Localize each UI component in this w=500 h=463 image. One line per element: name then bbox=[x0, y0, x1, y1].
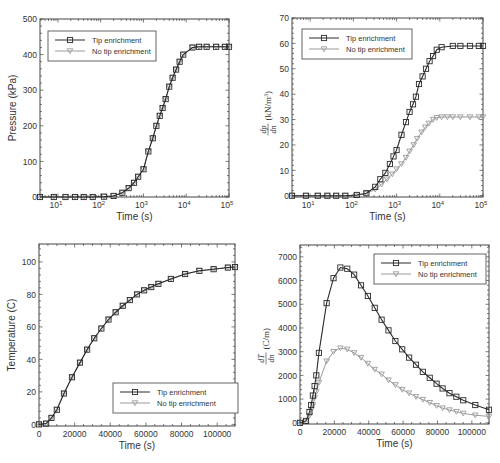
y-tick-label: 40 bbox=[280, 89, 290, 99]
y-tick-label: 20 bbox=[280, 140, 290, 150]
dtdn-legend: Tip enrichmentNo tip enrichment bbox=[374, 254, 486, 284]
dtdn-chart: 0100020003000400050006000700002000040000… bbox=[257, 245, 492, 449]
x-tick-label: 101 bbox=[302, 200, 315, 211]
x-tick-label: 103 bbox=[135, 200, 148, 211]
x-tick-label: 0 bbox=[37, 429, 42, 439]
x-tick-label: 102 bbox=[345, 200, 358, 211]
legend-entry: No tip enrichment bbox=[92, 47, 152, 56]
x-tick-label: 20000 bbox=[323, 427, 347, 437]
pressure-xlabel: Time (s) bbox=[116, 211, 152, 222]
svg-text:dT: dT bbox=[257, 354, 266, 363]
y-tick-label: 40 bbox=[27, 355, 37, 365]
x-tick-label: 60000 bbox=[391, 427, 415, 437]
pressure-ylabel: Pressure (kPa) bbox=[7, 75, 18, 142]
temperature-chart: 020406080100020000400006000080000100000T… bbox=[6, 244, 238, 451]
temperature-legend: Tip enrichmentNo tip enrichment bbox=[113, 383, 238, 413]
x-tick-label: 105 bbox=[475, 200, 488, 211]
y-tick-label: 500 bbox=[23, 14, 37, 24]
y-tick-label: 100 bbox=[22, 257, 36, 267]
svg-text:Pressure (kPa): Pressure (kPa) bbox=[7, 75, 18, 142]
figure: 0100200300400500101102103104105Time (s)P… bbox=[0, 0, 500, 463]
legend-entry: Tip enrichment bbox=[346, 34, 396, 43]
x-tick-label: 80000 bbox=[426, 427, 450, 437]
x-tick-label: 80000 bbox=[170, 429, 194, 439]
series-tip-enrichment bbox=[297, 265, 491, 425]
series-no-tip-enrichment bbox=[297, 346, 492, 425]
legend-entry: Tip enrichment bbox=[157, 388, 207, 397]
svg-text:dn: dn bbox=[267, 355, 276, 363]
y-tick-label: 20 bbox=[27, 387, 37, 397]
x-tick-label: 40000 bbox=[357, 427, 381, 437]
series-tip-enrichment bbox=[37, 44, 231, 199]
y-tick-label: 0 bbox=[284, 191, 289, 201]
temperature-xlabel: Time (s) bbox=[119, 440, 155, 451]
figure-canvas: 0100200300400500101102103104105Time (s)P… bbox=[0, 0, 500, 463]
y-tick-label: 4000 bbox=[278, 323, 297, 333]
y-tick-label: 200 bbox=[23, 121, 37, 131]
y-tick-label: 60 bbox=[280, 39, 290, 49]
x-tick-label: 40000 bbox=[98, 429, 122, 439]
dpdn-ylabel: dpdn(kN/m3) bbox=[259, 91, 278, 136]
svg-text:(C/m): (C/m) bbox=[261, 328, 271, 350]
y-tick-label: 60 bbox=[27, 322, 37, 332]
x-tick-label: 20000 bbox=[63, 429, 87, 439]
series-no-tip-enrichment bbox=[289, 115, 486, 199]
y-tick-label: 0 bbox=[32, 192, 37, 202]
y-tick-label: 50 bbox=[280, 64, 290, 74]
dpdn-xlabel: Time (s) bbox=[369, 211, 405, 222]
x-tick-label: 105 bbox=[221, 200, 234, 211]
y-tick-label: 0 bbox=[31, 420, 36, 430]
series-no-tip-enrichment bbox=[37, 45, 232, 200]
pressure-legend: Tip enrichmentNo tip enrichment bbox=[48, 31, 156, 61]
y-tick-label: 7000 bbox=[278, 252, 297, 262]
legend-entry: Tip enrichment bbox=[92, 36, 142, 45]
x-tick-label: 104 bbox=[178, 200, 191, 211]
y-tick-label: 300 bbox=[23, 85, 37, 95]
y-tick-label: 1000 bbox=[278, 394, 297, 404]
dpdn-legend: Tip enrichmentNo tip enrichment bbox=[302, 29, 412, 59]
x-tick-label: 103 bbox=[388, 200, 401, 211]
legend-entry: No tip enrichment bbox=[418, 270, 478, 279]
svg-text:(kN/m3): (kN/m3) bbox=[263, 91, 274, 121]
legend-entry: No tip enrichment bbox=[346, 45, 406, 54]
x-tick-label: 100000 bbox=[203, 429, 232, 439]
x-tick-label: 102 bbox=[92, 200, 105, 211]
y-tick-label: 3000 bbox=[278, 347, 297, 357]
svg-text:Temperature (C): Temperature (C) bbox=[6, 299, 17, 372]
y-tick-label: 6000 bbox=[278, 276, 297, 286]
y-tick-label: 10 bbox=[280, 166, 290, 176]
y-tick-label: 5000 bbox=[278, 299, 297, 309]
dtdn-xlabel: Time (s) bbox=[376, 438, 412, 449]
dpdn-chart: 010203040506070101102103104105Time (s)dp… bbox=[259, 13, 488, 222]
y-tick-label: 100 bbox=[23, 157, 37, 167]
series-tip-enrichment bbox=[289, 43, 485, 198]
svg-text:dp: dp bbox=[259, 126, 268, 134]
y-tick-label: 30 bbox=[280, 115, 290, 125]
y-tick-label: 400 bbox=[23, 50, 37, 60]
y-tick-label: 70 bbox=[280, 13, 290, 23]
x-tick-label: 104 bbox=[431, 200, 444, 211]
y-tick-label: 2000 bbox=[278, 371, 297, 381]
x-tick-label: 101 bbox=[50, 200, 63, 211]
x-tick-label: 100000 bbox=[458, 427, 487, 437]
x-tick-label: 60000 bbox=[134, 429, 158, 439]
dtdn-ylabel: dTdn(C/m) bbox=[257, 328, 276, 365]
legend-entry: Tip enrichment bbox=[418, 259, 468, 268]
x-tick-label: 0 bbox=[298, 427, 303, 437]
pressure-chart: 0100200300400500101102103104105Time (s)P… bbox=[7, 14, 234, 222]
svg-text:dn: dn bbox=[269, 126, 278, 134]
y-tick-label: 80 bbox=[27, 290, 37, 300]
temperature-ylabel: Temperature (C) bbox=[6, 299, 17, 372]
legend-entry: No tip enrichment bbox=[157, 399, 217, 408]
y-tick-label: 0 bbox=[292, 418, 297, 428]
